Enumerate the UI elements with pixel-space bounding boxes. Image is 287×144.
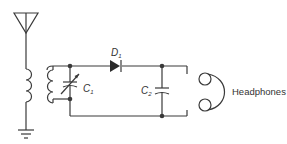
antenna-icon <box>14 13 38 66</box>
crystal-radio-schematic: C1 D1 C2 Headphones <box>0 0 287 144</box>
c2-label: C2 <box>141 85 152 97</box>
ground-icon <box>18 130 34 138</box>
diode-d1-icon <box>110 60 121 72</box>
junction-dot <box>68 97 73 102</box>
junction-dot <box>68 64 73 69</box>
primary-coil-icon <box>26 66 32 130</box>
headphones-label: Headphones <box>232 86 286 97</box>
secondary-coil-icon <box>47 66 70 103</box>
d1-label: D1 <box>111 47 122 59</box>
variable-capacitor-c1-icon <box>61 66 79 99</box>
c1-label: C1 <box>83 83 94 95</box>
capacitor-c2-icon <box>155 66 169 116</box>
headphones-icon <box>187 73 225 111</box>
